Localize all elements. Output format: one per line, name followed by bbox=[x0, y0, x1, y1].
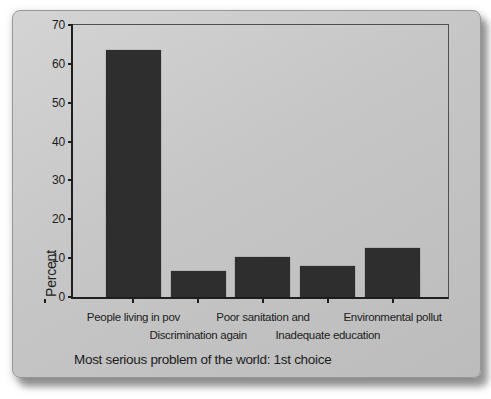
x-axis-area: People living in pov Discrimination agai… bbox=[73, 297, 448, 353]
y-tick-label: 70 bbox=[43, 19, 65, 31]
bar bbox=[235, 257, 290, 297]
y-axis-tick: 60 bbox=[43, 58, 73, 70]
bars-row bbox=[73, 25, 448, 297]
bar bbox=[300, 266, 355, 297]
x-category-slot: Discrimination again bbox=[166, 297, 231, 353]
figure-background: 0 10 20 30 40 50 bbox=[0, 0, 491, 399]
x-tick-mark bbox=[197, 299, 199, 303]
chart-panel: 0 10 20 30 40 50 bbox=[12, 10, 481, 378]
y-tick-mark bbox=[68, 24, 73, 26]
bar-slot bbox=[166, 25, 231, 297]
bar bbox=[365, 248, 420, 297]
x-category-slot: People living in pov bbox=[101, 297, 166, 353]
x-tick-mark bbox=[392, 299, 394, 303]
x-tick-mark bbox=[262, 299, 264, 303]
y-axis-title: Percent bbox=[43, 250, 59, 297]
bar bbox=[106, 50, 161, 297]
y-tick-mark bbox=[68, 63, 73, 65]
x-axis-origin-tick bbox=[44, 299, 46, 303]
y-tick-mark bbox=[68, 257, 73, 259]
bar bbox=[171, 271, 226, 297]
y-tick-mark bbox=[68, 179, 73, 181]
y-axis-tick: 20 bbox=[43, 213, 73, 225]
y-axis-tick: 40 bbox=[43, 136, 73, 148]
bar-slot bbox=[231, 25, 296, 297]
y-tick-label: 20 bbox=[43, 213, 65, 225]
y-axis-tick: 70 bbox=[43, 19, 73, 31]
x-category-slot: Poor sanitation and bbox=[231, 297, 296, 353]
y-axis-tick: 50 bbox=[43, 97, 73, 109]
y-tick-label: 60 bbox=[43, 58, 65, 70]
x-axis-title: Most serious problem of the world: 1st c… bbox=[74, 352, 331, 367]
x-category-label: Environmental pollut bbox=[343, 311, 441, 323]
y-tick-mark bbox=[68, 102, 73, 104]
plot-area: 0 10 20 30 40 50 bbox=[71, 24, 449, 299]
x-tick-mark bbox=[132, 299, 134, 303]
x-category-slot: Environmental pollut bbox=[360, 297, 425, 353]
x-category-slot: Inadequate education bbox=[295, 297, 360, 353]
y-tick-label: 40 bbox=[43, 136, 65, 148]
y-axis-tick: 30 bbox=[43, 174, 73, 186]
x-tick-mark bbox=[327, 299, 329, 303]
bar-slot bbox=[101, 25, 166, 297]
bar-slot bbox=[295, 25, 360, 297]
y-tick-mark bbox=[68, 141, 73, 143]
y-tick-label: 30 bbox=[43, 174, 65, 186]
y-tick-mark bbox=[68, 218, 73, 220]
y-tick-label: 50 bbox=[43, 97, 65, 109]
bar-slot bbox=[360, 25, 425, 297]
